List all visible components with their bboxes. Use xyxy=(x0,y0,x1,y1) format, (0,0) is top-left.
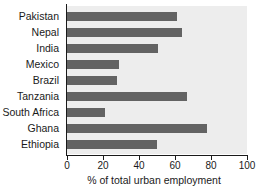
y-axis-line xyxy=(66,4,67,156)
category-axis: PakistanNepalIndiaMexicoBrazilTanzaniaSo… xyxy=(0,8,63,152)
bar xyxy=(67,12,177,21)
x-tick-label: 100 xyxy=(232,160,262,171)
category-label: Pakistan xyxy=(19,8,59,24)
plot-area xyxy=(67,6,247,154)
x-axis-title: % of total urban employment xyxy=(0,174,264,186)
x-tick-label: 20 xyxy=(88,160,118,171)
bar xyxy=(67,92,187,101)
bar xyxy=(67,108,105,117)
category-label: Ethiopia xyxy=(21,136,59,152)
x-axis-line xyxy=(66,155,248,156)
bar-chart-figure: PakistanNepalIndiaMexicoBrazilTanzaniaSo… xyxy=(0,0,264,191)
category-label: India xyxy=(36,40,59,56)
bar xyxy=(67,76,117,85)
category-label: Nepal xyxy=(32,24,59,40)
category-label: Brazil xyxy=(33,72,59,88)
bar xyxy=(67,28,182,37)
category-label: Mexico xyxy=(26,56,59,72)
category-label: Tanzania xyxy=(17,88,59,104)
category-label: South Africa xyxy=(2,104,59,120)
bar xyxy=(67,44,158,53)
x-tick-label: 80 xyxy=(196,160,226,171)
bar xyxy=(67,140,157,149)
bar xyxy=(67,124,207,133)
x-tick-label: 60 xyxy=(160,160,190,171)
bar xyxy=(67,60,119,69)
x-tick-label: 0 xyxy=(52,160,82,171)
x-tick-label: 40 xyxy=(124,160,154,171)
category-label: Ghana xyxy=(27,120,59,136)
